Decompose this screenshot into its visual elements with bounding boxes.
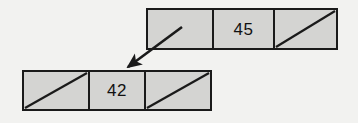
node-bottom-cell-null-left[interactable] bbox=[24, 72, 88, 109]
node-bottom-value-label: 42 bbox=[107, 82, 127, 99]
node-top-value-label: 45 bbox=[234, 21, 254, 38]
node-bottom[interactable]: 42 bbox=[22, 70, 212, 111]
linked-list-diagram: 45 42 bbox=[0, 0, 358, 123]
node-bottom-cell-null-right[interactable] bbox=[144, 72, 210, 109]
node-top-cell-value[interactable]: 45 bbox=[212, 10, 273, 48]
diagonal-slash-icon bbox=[24, 72, 88, 109]
node-bottom-cell-value[interactable]: 42 bbox=[88, 72, 144, 109]
diagonal-slash-icon bbox=[275, 10, 336, 48]
node-top[interactable]: 45 bbox=[146, 8, 338, 50]
node-top-cell-pointer[interactable] bbox=[148, 10, 212, 48]
diagonal-slash-icon bbox=[146, 72, 210, 109]
node-top-cell-null[interactable] bbox=[273, 10, 336, 48]
